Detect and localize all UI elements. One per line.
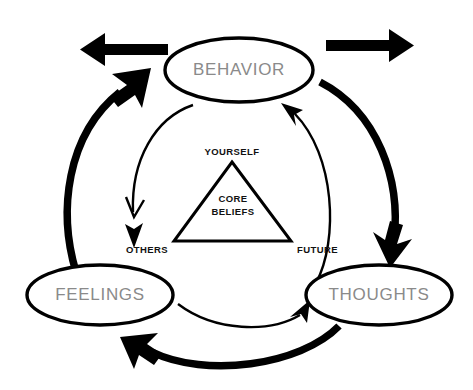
core-beliefs-triangle: CORE BELIEFS — [174, 162, 291, 241]
core-beliefs-line2: BELIEFS — [212, 206, 255, 217]
triangle-vertex-others: OTHERS — [126, 244, 168, 255]
cbt-cycle-diagram: CORE BELIEFS YOURSELF OTHERS FUTURE BEHA… — [0, 0, 473, 390]
triangle-vertex-future: FUTURE — [297, 244, 338, 255]
node-thoughts-label: THOUGHTS — [329, 285, 430, 304]
connection-thoughts-to-behavior — [281, 103, 330, 283]
connection-thoughts-to-feelings — [120, 326, 339, 369]
node-feelings-label: FEELINGS — [55, 285, 145, 304]
node-feelings[interactable]: FEELINGS — [27, 265, 173, 325]
connection-feelings-to-thoughts — [178, 300, 310, 327]
external-arrow-right-icon — [326, 29, 414, 62]
node-behavior-label: BEHAVIOR — [193, 60, 285, 79]
node-behavior[interactable]: BEHAVIOR — [165, 38, 313, 102]
connection-behavior-to-thoughts — [320, 82, 412, 268]
external-arrow-left-icon — [80, 33, 168, 66]
node-thoughts[interactable]: THOUGHTS — [306, 265, 452, 325]
core-beliefs-line1: CORE — [218, 193, 247, 204]
triangle-vertex-yourself: YOURSELF — [205, 146, 260, 157]
